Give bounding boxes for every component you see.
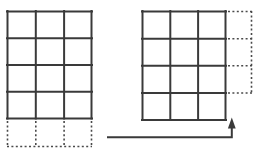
- background: [0, 0, 260, 153]
- figure-canvas: [0, 0, 260, 153]
- geometry-figure: [0, 0, 260, 153]
